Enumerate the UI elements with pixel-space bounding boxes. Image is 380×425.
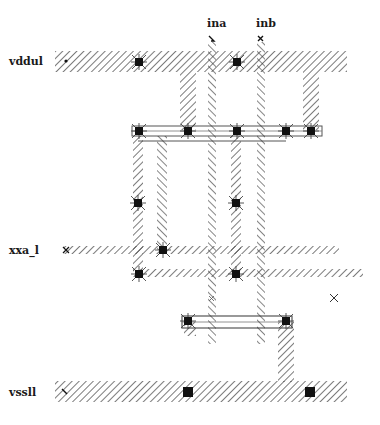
vss-rail	[55, 381, 347, 402]
contact-icon	[228, 195, 244, 211]
contacts-ndiff	[180, 313, 294, 329]
cross-marker-icon	[330, 294, 338, 302]
contact-icon	[131, 123, 147, 139]
contact-icon	[228, 266, 244, 282]
contact-icon	[278, 313, 294, 329]
contact-icon	[180, 123, 196, 139]
inb-label: inb	[256, 17, 276, 30]
vdd-straps	[180, 72, 319, 130]
contact-icon	[303, 123, 319, 139]
contacts-mid	[130, 195, 244, 282]
contact-icon	[131, 54, 147, 70]
layout-canvas: vddul xxa_l vssll ina inb	[0, 0, 380, 425]
vss-strap	[184, 322, 294, 382]
contact-icon	[305, 387, 315, 397]
vdd-label: vddul	[8, 55, 43, 68]
contact-icon	[229, 54, 245, 70]
contact-icon	[278, 123, 294, 139]
pin-cross-icon	[258, 36, 263, 41]
contact-icon	[131, 266, 147, 282]
pin-dot-icon	[64, 59, 67, 62]
pin-markers	[62, 36, 338, 394]
ina-label: ina	[207, 17, 226, 30]
inb-poly	[257, 42, 265, 344]
contact-icon	[183, 387, 193, 397]
contact-icon	[229, 123, 245, 139]
vdd-rail	[55, 51, 347, 72]
contact-icon	[130, 195, 146, 211]
output-label: xxa_l	[9, 244, 39, 258]
pin-arrow-icon	[209, 36, 214, 41]
vss-label: vssll	[8, 386, 36, 399]
n-diffusion	[182, 316, 292, 328]
contact-icon	[180, 313, 196, 329]
contact-icon	[155, 242, 171, 258]
